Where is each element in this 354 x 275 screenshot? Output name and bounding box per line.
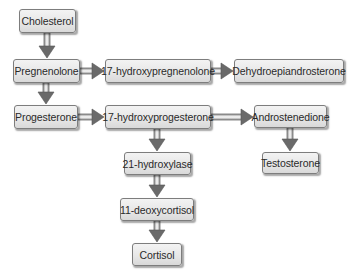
arrow-21-hydroxylase-to-11-deoxycortisol: [149, 175, 165, 197]
node-21-hydroxylase: 21-hydroxylase: [124, 152, 191, 175]
node-11-deoxycortisol: 11-deoxycortisol: [120, 198, 194, 221]
arrow-cholesterol-to-pregnenolone: [39, 33, 55, 58]
node-17-hydroxyprogesterone: 17-hydroxyprogesterone: [105, 105, 211, 129]
node-17-hydroxypregnenolone: 17-hydroxypregnenolone: [105, 59, 211, 83]
arrow-progesterone-to-17-hydroxyprogesterone: [78, 109, 104, 125]
arrow-17-hydroxyprogesterone-to-androstenedione: [211, 109, 253, 125]
arrow-11-deoxycortisol-to-cortisol: [149, 221, 165, 242]
arrows-layer: [0, 0, 354, 275]
arrow-17-hydroxyprogesterone-to-21-hydroxylase: [149, 129, 165, 151]
node-androstenedione: Androstenedione: [254, 105, 327, 128]
steroid-pathway-diagram: Cholesterol Pregnenolone 17-hydroxypregn…: [0, 0, 354, 275]
arrow-pregnenolone-to-progesterone: [38, 83, 54, 104]
arrow-androstenedione-to-testosterone: [282, 128, 298, 151]
node-pregnenolone: Pregnenolone: [13, 59, 80, 83]
node-testosterone: Testosterone: [262, 152, 319, 174]
node-cortisol: Cortisol: [132, 243, 182, 266]
node-dehydroepiandrosterone: Dehydroepiandrosterone: [234, 59, 344, 83]
node-cholesterol: Cholesterol: [19, 9, 76, 33]
node-progesterone: Progesterone: [14, 105, 78, 129]
